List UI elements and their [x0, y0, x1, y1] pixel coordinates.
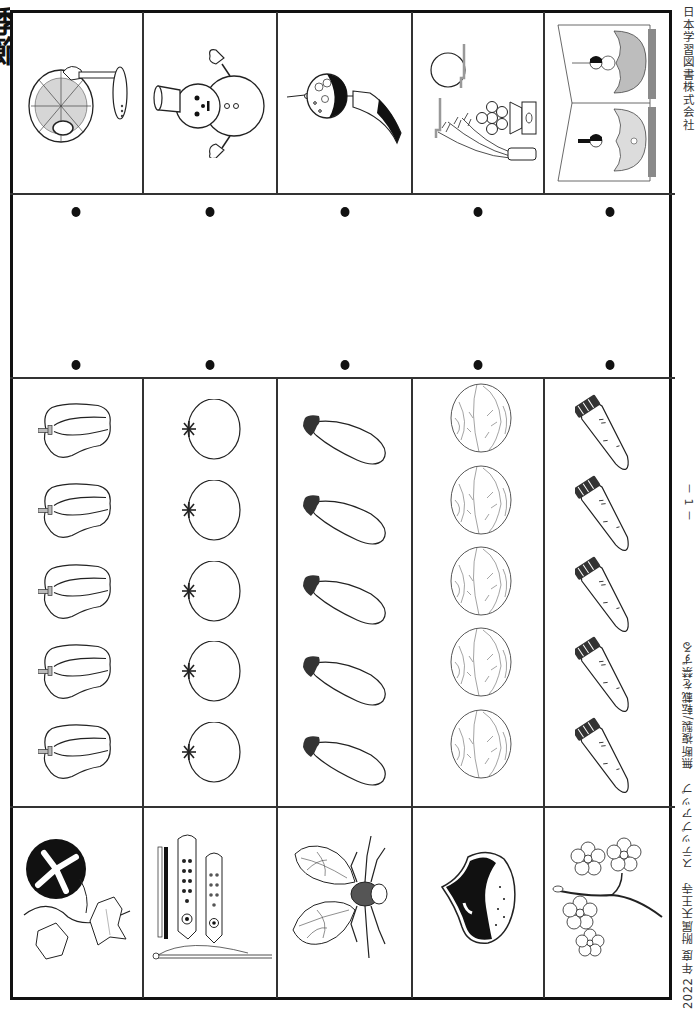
top-item-snowman[interactable]	[144, 13, 276, 193]
row-divider-1	[10, 193, 675, 195]
eggplant-icon[interactable]	[301, 653, 391, 711]
row-divider-2	[10, 377, 675, 379]
green-pepper-icon[interactable]	[38, 400, 118, 465]
carrot-icon[interactable]	[575, 636, 645, 716]
cicada-icon	[287, 830, 402, 965]
electric-fan-icon	[23, 48, 133, 158]
cabbage-icon[interactable]	[449, 464, 513, 536]
eggplant-icon[interactable]	[301, 412, 391, 470]
cabbage-icon[interactable]	[449, 382, 513, 454]
bottom-item-chestnut[interactable]	[413, 808, 543, 986]
chestnut-icon	[438, 847, 518, 947]
dot-bottom-2[interactable]	[206, 360, 215, 370]
dot-bottom-1[interactable]	[72, 360, 81, 370]
carrot-icon[interactable]	[575, 556, 645, 636]
eggplant-icon[interactable]	[301, 733, 391, 791]
carrot-icon[interactable]	[575, 717, 645, 797]
tomato-icon[interactable]	[180, 722, 242, 786]
top-item-moon-viewing[interactable]	[413, 13, 543, 193]
dot-bottom-4[interactable]	[474, 360, 483, 370]
hina-dolls-icon	[554, 21, 664, 186]
dot-top-3[interactable]	[341, 207, 350, 217]
cherry-blossom-icon	[550, 827, 668, 967]
tomato-icon[interactable]	[180, 399, 242, 463]
eggplant-icon[interactable]	[301, 572, 391, 630]
bottom-item-koinobori[interactable]	[144, 808, 276, 986]
top-item-hina-dolls[interactable]	[545, 13, 673, 193]
moon-viewing-icon	[418, 38, 538, 168]
dot-top-5[interactable]	[606, 207, 615, 217]
dot-bottom-5[interactable]	[606, 360, 615, 370]
publisher-label: 日本学習図書株式会社	[680, 6, 696, 131]
footer-copyright: 2022 年度 附属天王寺 ステップアップ 無断複製/転載を禁ずる	[680, 640, 696, 1009]
eggplant-icon[interactable]	[301, 492, 391, 550]
page-title-fragment: 季節	[0, 6, 10, 146]
tomato-icon[interactable]	[180, 480, 242, 544]
carrot-icon[interactable]	[575, 394, 645, 474]
top-item-electric-fan[interactable]	[13, 13, 142, 193]
cabbage-icon[interactable]	[449, 545, 513, 617]
tomato-icon[interactable]	[180, 641, 242, 705]
tomato-icon[interactable]	[180, 561, 242, 625]
bottom-item-cherry-blossom[interactable]	[545, 808, 673, 986]
cabbage-icon[interactable]	[449, 708, 513, 780]
bottom-item-cicada[interactable]	[278, 808, 411, 986]
green-pepper-icon[interactable]	[38, 480, 118, 545]
cabbage-icon[interactable]	[449, 626, 513, 698]
bottom-item-morning-glory[interactable]	[13, 808, 142, 986]
green-pepper-icon[interactable]	[38, 641, 118, 706]
top-item-wind-chime[interactable]	[278, 13, 411, 193]
page-number: － 1 －	[680, 483, 696, 522]
green-pepper-icon[interactable]	[38, 561, 118, 626]
dot-top-1[interactable]	[72, 207, 81, 217]
dot-top-2[interactable]	[206, 207, 215, 217]
dot-top-4[interactable]	[474, 207, 483, 217]
dot-bottom-3[interactable]	[341, 360, 350, 370]
morning-glory-icon	[18, 827, 138, 967]
carrot-icon[interactable]	[575, 475, 645, 555]
green-pepper-icon[interactable]	[38, 721, 118, 786]
page-title-text: 季節	[0, 6, 10, 66]
koinobori-icon	[148, 827, 273, 967]
wind-chime-icon	[285, 53, 405, 153]
snowman-icon	[150, 48, 270, 158]
